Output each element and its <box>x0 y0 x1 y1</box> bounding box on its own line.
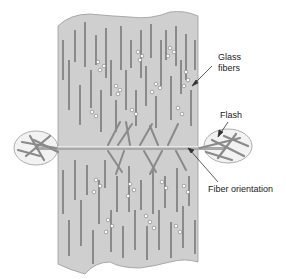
glass-fibers-label: Glass fibers <box>218 52 241 74</box>
glass-fibers-label-line1: Glass <box>218 52 241 63</box>
fiber-orientation-label: Fiber orientation <box>208 184 273 195</box>
weld-line <box>36 146 226 150</box>
glass-fibers-label-line2: fibers <box>218 63 241 74</box>
flash-label: Flash <box>220 110 242 121</box>
weld-cross-section-diagram <box>0 0 286 279</box>
